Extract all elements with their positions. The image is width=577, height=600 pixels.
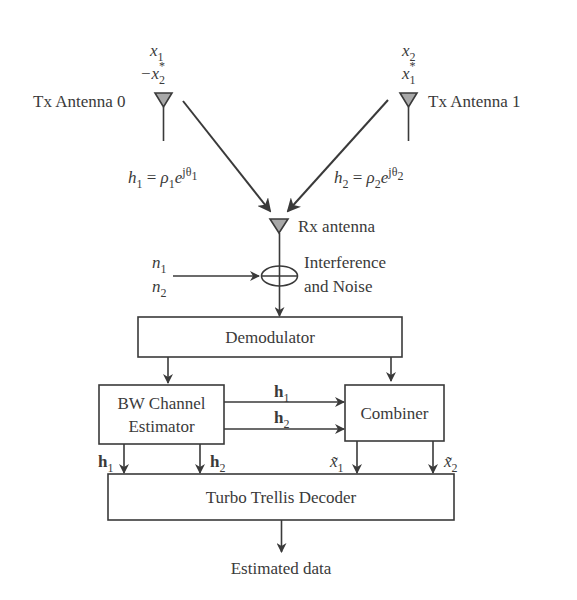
channel-estimator-block: BW Channel Estimator <box>99 385 224 444</box>
noise-label-1: Interference <box>304 253 386 272</box>
estimator-label-1: BW Channel <box>118 394 206 413</box>
tx-antenna-0: x1 −x2* Tx Antenna 0 <box>33 41 172 141</box>
channel-h1-formula: h1 = ρ1ejθ1 <box>128 165 197 191</box>
antenna-icon <box>270 219 288 233</box>
decoder-block: Turbo Trellis Decoder <box>108 474 454 520</box>
block-diagram: x1 −x2* Tx Antenna 0 x2 x1* Tx Antenna 1… <box>0 0 577 600</box>
estimator-label-2: Estimator <box>128 417 194 436</box>
demodulator-block: Demodulator <box>138 317 402 357</box>
combiner-block: Combiner <box>345 385 444 441</box>
noise-n1: n1 <box>152 253 167 276</box>
channel-h2-formula: h2 = ρ2ejθ2 <box>334 165 403 191</box>
tx0-symbol-2: −x2* <box>140 59 165 87</box>
combiner-label: Combiner <box>361 404 429 423</box>
antenna-icon <box>400 93 417 107</box>
decoder-label: Turbo Trellis Decoder <box>206 488 357 507</box>
noise-adder: n1 n2 Interference and Noise <box>152 253 386 316</box>
tx1-symbol-2: x1* <box>401 59 416 87</box>
tx-antenna-1: x2 x1* Tx Antenna 1 <box>400 41 521 141</box>
demodulator-label: Demodulator <box>225 328 315 347</box>
tx0-label: Tx Antenna 0 <box>33 92 126 111</box>
antenna-icon <box>155 93 172 107</box>
channel-path-h1 <box>183 101 270 211</box>
output-label: Estimated data <box>231 559 332 578</box>
noise-label-2: and Noise <box>304 277 372 296</box>
rx-label: Rx antenna <box>298 217 375 236</box>
noise-n2: n2 <box>152 277 167 300</box>
tx1-label: Tx Antenna 1 <box>428 92 521 111</box>
signal-h2-to-combiner: h2 <box>274 408 289 431</box>
signal-x1-tilde: x̃1 <box>329 452 344 475</box>
signal-x2-tilde: x̃2 <box>443 452 458 475</box>
signal-h2-to-decoder: h2 <box>210 452 225 475</box>
signal-h1-to-decoder: h1 <box>98 452 113 475</box>
channel-path-h2 <box>288 100 388 211</box>
